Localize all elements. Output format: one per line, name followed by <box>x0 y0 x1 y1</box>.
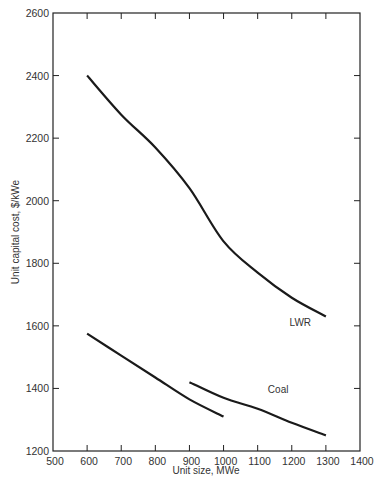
series-line-coal-600-1000-mwe <box>87 334 223 417</box>
x-tick-label: 1200 <box>282 455 306 467</box>
x-tick-label: 800 <box>149 455 167 467</box>
curve-label-coal: Coal <box>268 384 289 395</box>
x-axis-ticks: 50060070080090010001100120013001400 <box>46 13 374 467</box>
x-axis-title: Unit size, MWe <box>172 465 239 476</box>
y-axis-ticks: 12001400160018002000220024002600 <box>26 7 360 457</box>
series-line-lwr <box>87 76 326 317</box>
x-tick-label: 1400 <box>350 455 374 467</box>
y-tick-label: 1800 <box>26 257 50 269</box>
chart-container: 50060070080090010001100120013001400 1200… <box>0 0 379 488</box>
y-tick-label: 1400 <box>26 382 50 394</box>
y-tick-label: 2200 <box>26 132 50 144</box>
x-tick-label: 1300 <box>316 455 340 467</box>
x-tick-label: 600 <box>80 455 98 467</box>
series-layer <box>87 76 326 436</box>
y-tick-label: 2000 <box>26 195 50 207</box>
y-tick-label: 2600 <box>26 7 50 19</box>
curve-labels: LWRCoal <box>268 317 311 395</box>
y-tick-label: 2400 <box>26 70 50 82</box>
x-tick-label: 1100 <box>248 455 271 467</box>
x-tick-label: 700 <box>114 455 132 467</box>
y-tick-label: 1600 <box>26 320 50 332</box>
line-chart: 50060070080090010001100120013001400 1200… <box>0 0 379 488</box>
y-axis-title: Unit capital cost, $/kWe <box>10 179 21 284</box>
plot-frame <box>53 13 360 451</box>
curve-label-lwr: LWR <box>290 317 311 328</box>
plot-border <box>53 13 360 451</box>
y-tick-label: 1200 <box>26 445 50 457</box>
